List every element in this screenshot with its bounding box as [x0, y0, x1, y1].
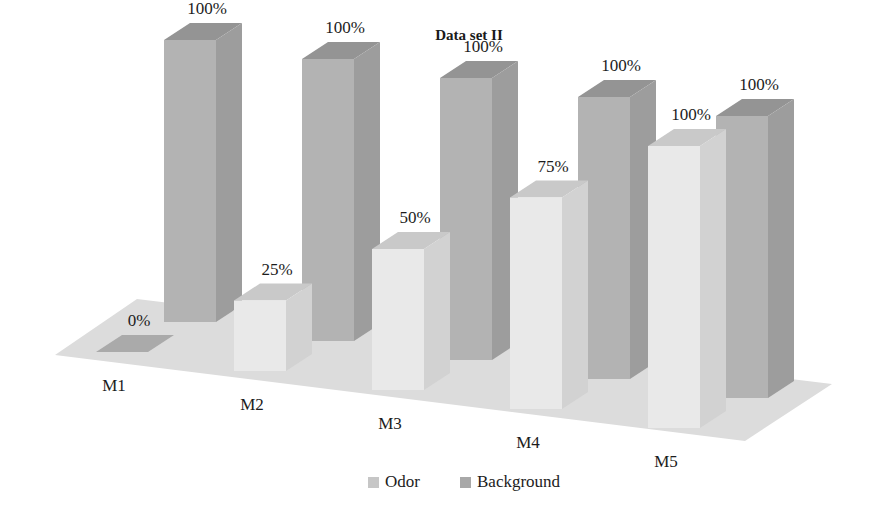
value-label-m2-background: 100% [325, 18, 365, 37]
bar-m3-odor [372, 232, 450, 390]
legend-label-odor: Odor [385, 472, 420, 491]
bar-front-face [234, 301, 286, 372]
chart-title: Data set II [435, 27, 503, 43]
bar-m4-background [578, 80, 656, 379]
category-label-m2: M2 [240, 395, 264, 414]
bar-side-face [424, 232, 450, 390]
bar-m2-odor [234, 284, 312, 372]
bar-m1-background [164, 23, 242, 322]
value-label-m4-background: 100% [601, 56, 641, 75]
value-label-m5-odor: 100% [671, 105, 711, 124]
legend-label-background: Background [477, 472, 561, 491]
chart-legend: OdorBackground [368, 472, 561, 491]
value-label-m2-odor: 25% [261, 260, 292, 279]
bar-side-face [562, 181, 588, 410]
bar-m2-background [302, 42, 380, 341]
bar-m5-odor [648, 129, 726, 428]
category-label-m3: M3 [378, 414, 402, 433]
category-label-m4: M4 [516, 433, 540, 452]
bar-front-face [164, 40, 216, 322]
bar-m4-odor [510, 181, 588, 410]
bar-front-face [372, 249, 424, 390]
value-label-m1-background: 100% [187, 0, 227, 18]
value-label-m1-odor: 0% [128, 311, 151, 330]
bar-chart-3d: 100%0%100%25%100%50%100%75%100%100% M1M2… [0, 0, 887, 518]
bar-side-face [216, 23, 242, 322]
bar-m5-background [716, 99, 794, 398]
value-label-m5-background: 100% [739, 75, 779, 94]
value-label-m3-odor: 50% [399, 208, 430, 227]
bar-m3-background [440, 61, 518, 360]
bar-side-face [768, 99, 794, 398]
bar-front-face [648, 146, 700, 428]
category-label-m5: M5 [654, 452, 678, 471]
category-label-m1: M1 [102, 376, 126, 395]
value-label-m4-odor: 75% [537, 157, 568, 176]
bar-front-face [510, 198, 562, 410]
legend-swatch-odor [368, 477, 379, 488]
bar-side-face [700, 129, 726, 428]
legend-swatch-background [460, 477, 471, 488]
